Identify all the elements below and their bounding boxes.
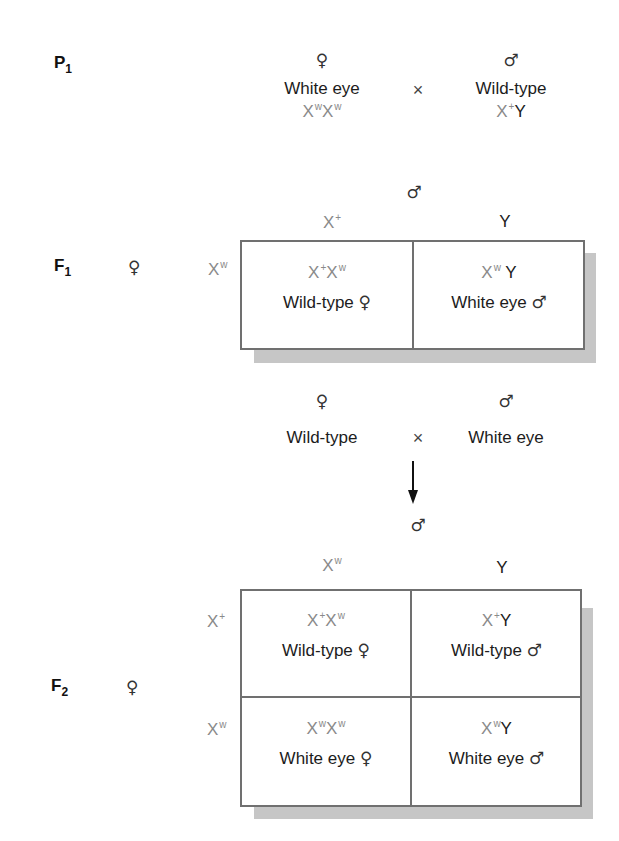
f2-row-header-x-w: Xw: [207, 719, 227, 740]
cell-phenotype: Wild-type ♂: [412, 641, 581, 661]
f1-column-header-x: X+: [323, 212, 341, 233]
f2-column-header-y: Y: [496, 558, 507, 578]
cell-phenotype: Wild-type ♀: [242, 641, 410, 661]
f1-label-text: F: [54, 256, 64, 275]
cell-phenotype: White eye ♂: [414, 293, 584, 313]
f1-cell-female: X+Xw Wild-type ♀: [242, 262, 412, 313]
female-symbol-icon: ♀: [360, 748, 372, 768]
female-symbol-icon: ♀: [359, 292, 371, 312]
female-symbol-icon: ♀: [358, 640, 370, 660]
female-symbol-icon: ♀: [316, 393, 328, 410]
down-arrow-icon: [412, 461, 414, 493]
p1-generation-label: P1: [54, 53, 72, 76]
f2-row-header-x-plus: X+: [207, 611, 225, 632]
male-symbol-icon: ♂: [406, 184, 421, 201]
cell-genotype: Xw Y: [414, 262, 584, 283]
cross-symbol: ×: [413, 80, 424, 101]
f1-cross-female-phenotype: Wild-type: [287, 428, 358, 448]
male-symbol-icon: ♂: [532, 292, 547, 312]
cell-phenotype: White eye ♀: [242, 749, 410, 769]
down-arrow-head: [408, 490, 418, 504]
p1-female-phenotype: White eye: [284, 79, 360, 99]
f1-generation-label: F1: [54, 256, 71, 279]
cell-genotype: X+Xw: [242, 610, 410, 631]
y-chromosome: Y: [514, 102, 525, 121]
f2-cell-r2c2: XwY White eye ♂: [412, 718, 581, 769]
male-symbol-icon: ♂: [529, 748, 544, 768]
p1-label-subscript: 1: [65, 62, 72, 76]
punnett-divider-horizontal: [240, 696, 582, 698]
f2-column-header-x: Xw: [322, 555, 342, 576]
f2-cell-r1c2: X+Y Wild-type ♂: [412, 610, 581, 661]
x-chromosome: X+: [496, 102, 514, 121]
female-symbol-icon: ♀: [128, 259, 140, 276]
f2-label-text: F: [51, 676, 61, 695]
f1-column-header-y: Y: [499, 212, 510, 232]
female-symbol-icon: ♀: [316, 52, 328, 69]
cross-symbol: ×: [413, 428, 424, 449]
female-symbol-icon: ♀: [126, 679, 138, 696]
male-symbol-icon: ♂: [527, 640, 542, 660]
male-symbol-icon: ♂: [503, 52, 518, 69]
f1-cross-male-phenotype: White eye: [468, 428, 544, 448]
cell-genotype: XwY: [412, 718, 581, 739]
p1-label-text: P: [54, 53, 65, 72]
f1-cell-male: Xw Y White eye ♂: [414, 262, 584, 313]
x-chromosome: Xw: [302, 102, 322, 121]
f2-label-subscript: 2: [61, 685, 68, 699]
cell-phenotype: Wild-type ♀: [242, 293, 412, 313]
f1-label-subscript: 1: [64, 265, 71, 279]
cell-phenotype: White eye ♂: [412, 749, 581, 769]
cell-genotype: X+Y: [412, 610, 581, 631]
male-symbol-icon: ♂: [410, 517, 425, 534]
f2-generation-label: F2: [51, 676, 68, 699]
p1-male-genotype: X+Y: [496, 101, 526, 122]
cell-genotype: X+Xw: [242, 262, 412, 283]
f1-row-header-x: Xw: [208, 259, 228, 280]
p1-male-phenotype: Wild-type: [476, 79, 547, 99]
p1-female-genotype: XwXw: [302, 101, 341, 122]
male-symbol-icon: ♂: [498, 393, 513, 410]
x-chromosome: Xw: [322, 102, 342, 121]
f2-cell-r2c1: XwXw White eye ♀: [242, 718, 410, 769]
f2-cell-r1c1: X+Xw Wild-type ♀: [242, 610, 410, 661]
cell-genotype: XwXw: [242, 718, 410, 739]
